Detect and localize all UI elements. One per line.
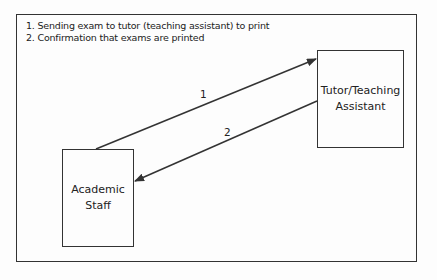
- node-academic-staff: Academic Staff: [62, 149, 134, 247]
- node-tutor-teaching-assistant: Tutor/Teaching Assistant: [317, 50, 404, 148]
- node-label: Academic: [71, 182, 125, 198]
- edge-1-arrow: [96, 59, 316, 149]
- node-label: Staff: [71, 198, 125, 214]
- edge-1-label: 1: [200, 88, 207, 100]
- edge-2-label: 2: [224, 126, 231, 138]
- node-label: Assistant: [321, 99, 401, 115]
- edge-2-arrow: [135, 101, 317, 181]
- node-label: Tutor/Teaching: [321, 83, 401, 99]
